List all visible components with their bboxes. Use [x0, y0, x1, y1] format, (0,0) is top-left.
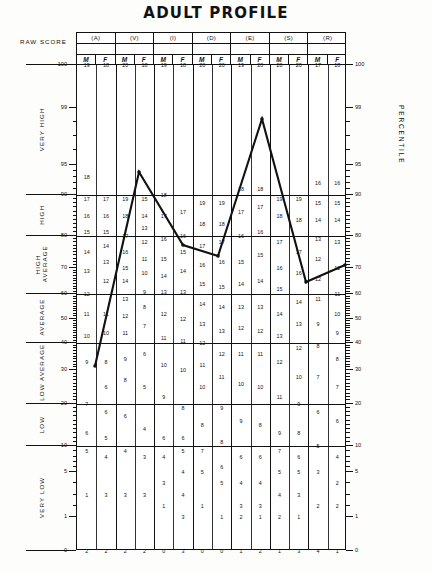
- score-value: 10: [334, 311, 340, 317]
- axis-tick-minor: [73, 280, 77, 281]
- score-value: 12: [103, 278, 109, 284]
- column-separator: [96, 65, 97, 549]
- score-value: 20: [219, 62, 225, 68]
- category-label-average: AVERAGE: [30, 293, 52, 342]
- score-value: 4: [278, 492, 281, 498]
- score-value: 6: [336, 418, 339, 424]
- axis-tick-minor: [73, 340, 77, 341]
- axis-tick-minor: [346, 245, 350, 246]
- score-value: 9: [162, 394, 165, 400]
- score-value: 1: [162, 503, 165, 509]
- score-value: 10: [238, 381, 244, 387]
- score-value: 3: [182, 548, 185, 554]
- axis-tick-minor: [73, 254, 77, 255]
- column-separator: [289, 65, 290, 549]
- score-value: 13: [199, 321, 205, 327]
- axis-tick-minor: [346, 411, 350, 412]
- axis-tick-minor: [346, 420, 350, 421]
- score-value: 14: [277, 311, 283, 317]
- score-value: 14: [257, 278, 263, 284]
- score-value: 15: [180, 249, 186, 255]
- score-value: 12: [277, 359, 283, 365]
- score-value: 1: [278, 548, 281, 554]
- score-value: 1: [297, 514, 300, 520]
- axis-tick-minor: [346, 323, 350, 324]
- score-value: 11: [315, 296, 321, 302]
- raw-score-entry-row[interactable]: [77, 44, 345, 55]
- score-value: 14: [161, 273, 167, 279]
- score-value: 1: [239, 548, 242, 554]
- axis-tick-minor: [346, 450, 350, 451]
- score-value: 15: [315, 200, 321, 206]
- raw-score-cell-E[interactable]: [231, 44, 270, 54]
- axis-tick-minor: [346, 188, 350, 189]
- score-value: 12: [180, 316, 186, 322]
- category-bar: [26, 293, 76, 294]
- axis-tick-major: [69, 107, 76, 108]
- raw-score-cell-S[interactable]: [270, 44, 309, 54]
- axis-tick-major: [69, 471, 76, 472]
- raw-score-cell-I[interactable]: [154, 44, 193, 54]
- score-value: 14: [315, 217, 321, 223]
- score-value: 2: [278, 514, 281, 520]
- score-value: 15: [122, 265, 128, 271]
- column-separator: [270, 65, 271, 549]
- axis-tick-minor: [73, 376, 77, 377]
- score-value: 5: [104, 435, 107, 441]
- axis-tick-minor: [73, 347, 77, 348]
- score-value: 9: [317, 321, 320, 327]
- axis-tick-minor: [73, 364, 77, 365]
- axis-tick-minor: [346, 206, 350, 207]
- axis-tick-minor: [73, 437, 77, 438]
- category-label-high: HIGH: [30, 194, 52, 235]
- axis-tick-minor: [73, 327, 77, 328]
- axis-tick-minor: [346, 313, 350, 314]
- score-value: 3: [143, 454, 146, 460]
- score-value: 13: [257, 304, 263, 310]
- raw-score-cell-A[interactable]: [77, 44, 116, 54]
- score-value: 18: [277, 213, 283, 219]
- raw-score-cell-R[interactable]: [308, 44, 347, 54]
- raw-score-cell-V[interactable]: [116, 44, 155, 54]
- raw-score-cell-D[interactable]: [193, 44, 232, 54]
- score-value: 11: [200, 362, 206, 368]
- axis-tick-minor: [346, 264, 350, 265]
- axis-tick-minor: [73, 323, 77, 324]
- axis-tick-major: [346, 369, 353, 370]
- axis-tick-minor: [346, 432, 350, 433]
- axis-tick-minor: [346, 272, 350, 273]
- axis-tick-label-1: 1: [64, 513, 67, 519]
- score-value: 6: [162, 435, 165, 441]
- category-label-high-average: HIGH AVERAGE: [30, 235, 52, 293]
- score-value: 14: [103, 243, 109, 249]
- score-value: 9: [220, 405, 223, 411]
- axis-tick-minor: [73, 211, 77, 212]
- axis-tick-minor: [346, 358, 350, 359]
- score-value: 19: [84, 62, 90, 68]
- score-value: 4: [317, 548, 320, 554]
- score-value: 14: [199, 301, 205, 307]
- score-value: 5: [182, 448, 185, 454]
- column-separator: [212, 65, 213, 549]
- axis-tick-minor: [73, 149, 77, 150]
- axis-tick-minor: [73, 337, 77, 338]
- score-value: 15: [199, 281, 205, 287]
- axis-tick-minor: [346, 241, 350, 242]
- axis-tick-minor: [73, 428, 77, 429]
- axis-tick-label-50: 50: [61, 315, 67, 321]
- score-value: 4: [124, 448, 127, 454]
- axis-tick-minor: [346, 364, 350, 365]
- axis-tick-label-10: 10: [355, 442, 361, 448]
- axis-tick-minor: [73, 272, 77, 273]
- score-value: 18: [122, 213, 128, 219]
- score-value: 19: [296, 196, 302, 202]
- score-value: 18: [180, 62, 186, 68]
- axis-tick-minor: [346, 340, 350, 341]
- score-value: 13: [103, 259, 109, 265]
- axis-tick-minor: [346, 310, 350, 311]
- axis-tick-minor: [346, 389, 350, 390]
- score-value: 15: [257, 252, 263, 258]
- axis-tick-minor: [73, 121, 77, 122]
- axis-tick-minor: [73, 135, 77, 136]
- score-value: 3: [239, 503, 242, 509]
